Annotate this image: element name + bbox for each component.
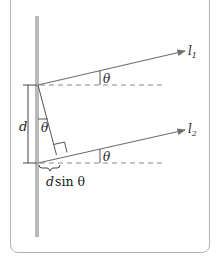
label-l2: l2 [188,122,197,138]
label-theta-mid: θ [41,121,49,135]
label-theta-bottom: θ [103,150,111,164]
ray-l1 [38,51,185,85]
path-difference-brace [39,165,60,171]
label-d: d [19,119,27,134]
ray-l2 [38,130,185,163]
label-l1: l1 [188,44,197,60]
double-slit-diagram: l1 l2 θ θ θ d dsin θ [0,0,218,261]
barrier [35,16,39,237]
label-d-sin-theta: dsin θ [46,174,85,189]
label-theta-top: θ [103,72,111,86]
